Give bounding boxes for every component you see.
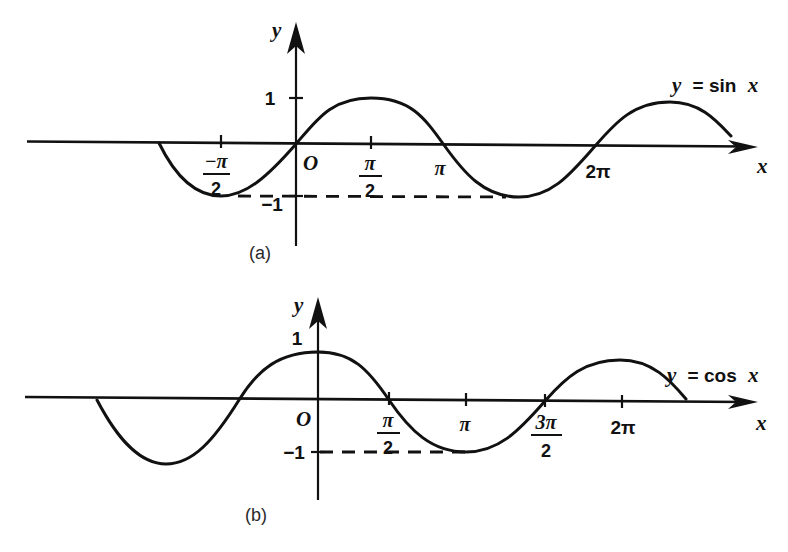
panel-b-cosine-graph: y x O 1 −1 π 2π π 2 3π 2 y = cos (25, 293, 767, 525)
svg-text:2: 2 (383, 438, 393, 458)
panel-b-tick-label-three-half-pi: 3π 2 (531, 411, 562, 461)
panel-b-curve-label-x: x (747, 363, 759, 387)
panel-a-caption: (a) (249, 243, 271, 263)
svg-text:π: π (383, 409, 395, 431)
panel-a-x-axis-label: x (756, 154, 768, 178)
panel-b-origin-label: O (296, 407, 311, 431)
panel-a-curve-label-x: x (747, 73, 759, 97)
panel-a-sine-graph: y x O 1 −1 π 2π −π 2 π 2 y = sin (27, 18, 768, 263)
panel-a-curve-label-operator: = sin (693, 75, 737, 96)
svg-text:−π: −π (204, 150, 228, 172)
svg-text:2: 2 (541, 441, 551, 461)
panel-a-y-axis-label: y (269, 18, 282, 42)
panel-b-curve-label-operator: = cos (688, 365, 737, 386)
panel-b-tick-label-two-pi: 2π (610, 417, 636, 438)
svg-text:π: π (365, 152, 377, 174)
panel-a-x-axis (27, 142, 747, 147)
panel-a-origin-label: O (303, 151, 318, 175)
panel-a-tick-label-minus-one: −1 (261, 194, 283, 215)
panel-b-caption: (b) (245, 505, 267, 525)
panel-b-tick-label-one: 1 (292, 328, 303, 349)
panel-a-tick-label-negative-half-pi: −π 2 (203, 150, 230, 199)
panel-a-tick-label-two-pi: 2π (585, 161, 611, 182)
panel-b-tick-label-minus-one: −1 (283, 442, 305, 463)
svg-text:2: 2 (365, 181, 375, 201)
panel-b-y-axis-label: y (291, 293, 304, 317)
panel-a-tick-label-one: 1 (265, 88, 276, 109)
panel-a-curve-equation-label: y = sin x (669, 73, 758, 97)
panel-a-curve-label-y: y (669, 73, 682, 97)
panel-a-tick-label-pi: π (435, 157, 447, 179)
svg-text:2: 2 (211, 179, 221, 199)
panel-b-curve-equation-label: y = cos x (664, 363, 759, 387)
svg-text:3π: 3π (535, 411, 558, 433)
panel-a-tick-label-half-pi: π 2 (359, 152, 382, 201)
trig-graphs-figure: y x O 1 −1 π 2π −π 2 π 2 y = sin (0, 0, 788, 552)
panel-b-tick-label-pi: π (460, 413, 472, 435)
panel-b-x-axis-label: x (755, 411, 767, 435)
panel-b-curve-label-y: y (664, 363, 677, 387)
panel-a-sine-curve (159, 98, 731, 197)
